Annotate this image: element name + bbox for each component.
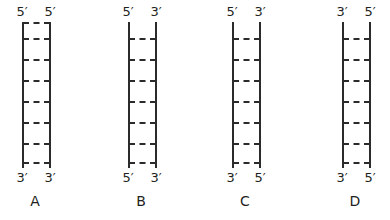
base-pair-rung [23,101,50,103]
base-pair-rungs [23,22,50,168]
duplex-panel-c: 5′ 3′ 3′ 5′ C [210,0,308,220]
bottom-left-end-label: 5′ [114,170,142,186]
bottom-end-labels: 3′ 5′ [210,170,308,186]
duplex-panel-d: 3′ 5′ 3′ 5′ D [320,0,390,220]
base-pair-rung [23,122,50,124]
base-pair-rung [233,143,260,145]
base-pair-rung [343,162,370,164]
bottom-right-end-label: 3′ [36,170,64,186]
dna-ladder [232,22,260,168]
bottom-end-labels: 5′ 3′ [106,170,204,186]
top-right-end-label: 3′ [142,4,170,20]
base-pair-rung [233,38,260,40]
dna-duplex-figure: 5′ 5′ 3′ 3′ A 5′ 3′ [0,0,390,220]
top-right-end-label: 5′ [356,4,384,20]
top-end-labels: 5′ 3′ [106,4,204,20]
bottom-left-end-label: 3′ [328,170,356,186]
base-pair-rung [129,122,156,124]
dna-ladder [128,22,156,168]
bottom-right-end-label: 5′ [246,170,274,186]
base-pair-rung [233,59,260,61]
base-pair-rung [23,162,50,164]
base-pair-rung [343,122,370,124]
bottom-end-labels: 3′ 5′ [320,170,390,186]
base-pair-rung [23,59,50,61]
base-pair-rungs [129,22,156,168]
base-pair-rung [129,38,156,40]
panel-caption: B [106,193,176,209]
base-pair-rung [343,143,370,145]
base-pair-rungs [343,22,370,168]
top-left-end-label: 5′ [218,4,246,20]
base-pair-rung [23,38,50,40]
bottom-left-end-label: 3′ [218,170,246,186]
bottom-end-labels: 3′ 3′ [0,170,98,186]
duplex-panel-a: 5′ 5′ 3′ 3′ A [0,0,98,220]
base-pair-rung [233,122,260,124]
panel-caption: A [0,193,70,209]
base-pair-rung [233,101,260,103]
panel-caption: C [210,193,280,209]
base-pair-rung [23,80,50,82]
top-right-end-label: 5′ [36,4,64,20]
top-end-labels: 5′ 5′ [0,4,98,20]
panel-caption: D [320,193,390,209]
base-pair-rung [129,101,156,103]
top-end-labels: 3′ 5′ [320,4,390,20]
dna-ladder [22,22,50,168]
base-pair-rung [343,80,370,82]
base-pair-rung [233,80,260,82]
base-pair-rung [343,59,370,61]
base-pair-rung [129,162,156,164]
bottom-left-end-label: 3′ [8,170,36,186]
base-pair-rung [343,101,370,103]
top-left-end-label: 5′ [8,4,36,20]
bottom-right-end-label: 5′ [356,170,384,186]
base-pair-rung [129,143,156,145]
dna-ladder [342,22,370,168]
base-pair-rung [343,38,370,40]
base-pair-rung [23,22,50,24]
top-left-end-label: 5′ [114,4,142,20]
top-right-end-label: 3′ [246,4,274,20]
duplex-panel-b: 5′ 3′ 5′ 3′ B [106,0,204,220]
top-end-labels: 5′ 3′ [210,4,308,20]
base-pair-rung [129,80,156,82]
base-pair-rung [23,143,50,145]
base-pair-rung [129,59,156,61]
top-left-end-label: 3′ [328,4,356,20]
bottom-right-end-label: 3′ [142,170,170,186]
base-pair-rung [233,162,260,164]
base-pair-rungs [233,22,260,168]
